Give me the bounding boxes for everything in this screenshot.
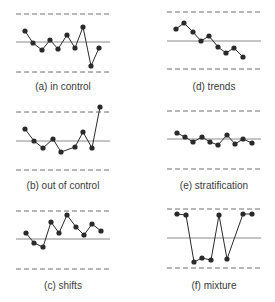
data-point bbox=[73, 224, 78, 229]
data-point bbox=[240, 211, 245, 216]
data-point bbox=[232, 141, 237, 146]
data-point bbox=[89, 221, 94, 226]
data-point bbox=[206, 33, 211, 38]
data-point bbox=[174, 211, 179, 216]
data-point bbox=[22, 126, 27, 131]
data-point bbox=[88, 63, 93, 68]
data-point bbox=[198, 38, 203, 43]
data-point bbox=[215, 142, 220, 147]
data-point bbox=[55, 46, 60, 51]
data-point bbox=[72, 144, 77, 149]
data-point bbox=[216, 212, 221, 217]
data-point bbox=[231, 45, 236, 50]
data-point bbox=[89, 145, 94, 150]
data-point bbox=[249, 140, 254, 145]
data-point bbox=[182, 134, 187, 139]
control-chart-c bbox=[16, 211, 110, 269]
data-point bbox=[31, 138, 36, 143]
data-point bbox=[224, 132, 229, 137]
chart-label-c-shifts: (c) shifts bbox=[44, 280, 82, 292]
data-point bbox=[96, 45, 101, 50]
chart-label-b-out-of-control: (b) out of control bbox=[27, 180, 100, 192]
data-point bbox=[174, 130, 179, 135]
data-point bbox=[48, 219, 53, 224]
data-point bbox=[56, 230, 61, 235]
control-chart-a bbox=[16, 14, 110, 72]
data-point bbox=[64, 32, 69, 37]
control-chart-b bbox=[16, 104, 110, 170]
data-point bbox=[215, 44, 220, 49]
data-point bbox=[224, 256, 229, 261]
data-point bbox=[249, 211, 254, 216]
data-point bbox=[22, 28, 27, 33]
data-point bbox=[40, 244, 45, 249]
data-line bbox=[25, 27, 99, 66]
data-point bbox=[208, 257, 213, 262]
data-line bbox=[26, 215, 101, 247]
data-point bbox=[240, 136, 245, 141]
data-point bbox=[97, 104, 102, 109]
data-point bbox=[80, 129, 85, 134]
data-point bbox=[223, 50, 228, 55]
data-point bbox=[81, 232, 86, 237]
data-point bbox=[39, 47, 44, 52]
data-line bbox=[25, 107, 100, 152]
control-chart-e bbox=[167, 111, 261, 169]
data-point bbox=[58, 149, 63, 154]
data-point bbox=[30, 40, 35, 45]
data-point bbox=[50, 136, 55, 141]
chart-label-e-stratification: (e) stratification bbox=[180, 180, 248, 192]
data-line bbox=[176, 23, 243, 57]
data-point bbox=[40, 145, 45, 150]
data-point bbox=[72, 45, 77, 50]
control-chart-patterns-figure bbox=[0, 0, 275, 302]
data-point bbox=[199, 134, 204, 139]
data-point bbox=[207, 139, 212, 144]
data-point bbox=[190, 139, 195, 144]
control-chart-f bbox=[167, 209, 261, 268]
data-point bbox=[190, 29, 195, 34]
data-point bbox=[183, 212, 188, 217]
data-point bbox=[64, 212, 69, 217]
chart-label-f-mixture: (f) mixture bbox=[192, 280, 237, 292]
control-chart-d bbox=[167, 12, 261, 69]
data-point bbox=[80, 24, 85, 29]
data-point bbox=[191, 259, 196, 264]
data-point bbox=[23, 230, 28, 235]
chart-label-a-in-control: (a) in control bbox=[35, 81, 91, 93]
data-point bbox=[31, 240, 36, 245]
chart-label-d-trends: (d) trends bbox=[193, 81, 236, 93]
data-point bbox=[199, 255, 204, 260]
data-point bbox=[240, 54, 245, 59]
data-point bbox=[98, 228, 103, 233]
data-point bbox=[47, 37, 52, 42]
data-point bbox=[181, 20, 186, 25]
data-point bbox=[173, 26, 178, 31]
